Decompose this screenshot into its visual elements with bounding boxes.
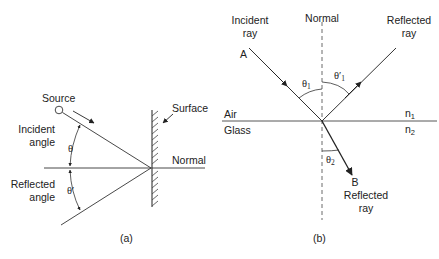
panel-a: Source Surface Normal Incident angle Ref… [11, 92, 209, 244]
glass-label: Glass [224, 124, 251, 136]
theta2-label: θ2 [326, 154, 335, 167]
refracted-ray-b [322, 121, 352, 175]
source-label: Source [42, 92, 75, 104]
source-icon [55, 106, 63, 114]
reflected-ray-bottom-label-2: ray [359, 202, 374, 214]
reflected-ray-top-label-2: ray [402, 27, 417, 39]
surface-hatching [152, 111, 158, 206]
caption-b: (b) [313, 232, 326, 244]
reflected-ray-top-label-1: Reflected [387, 14, 432, 26]
surface-label: Surface [172, 102, 208, 114]
theta1-prime-arc [322, 82, 349, 94]
reflection-refraction-figure: Source Surface Normal Incident angle Ref… [0, 0, 439, 259]
n1-label: n1 [405, 107, 415, 121]
normal-label-a: Normal [172, 154, 206, 166]
point-a-label: A [240, 48, 247, 60]
theta1-prime-label: θ′1 [334, 70, 345, 83]
normal-label-b: Normal [305, 12, 339, 24]
reflected-ray-bottom-label-1: Reflected [344, 189, 389, 201]
incident-ray-label-1: Incident [232, 14, 269, 26]
incident-angle-label-1: Incident [18, 123, 55, 135]
air-label: Air [224, 108, 237, 120]
reflected-angle-label-1: Reflected [11, 178, 56, 190]
theta2-arc [322, 150, 339, 151]
incident-ray [63, 113, 152, 169]
incident-ray-label-2: ray [243, 27, 258, 39]
incident-angle-label-2: angle [29, 136, 55, 148]
theta1-label: θ1 [302, 78, 311, 91]
point-b-label: B [351, 176, 358, 188]
reflected-direction-arrow-icon [345, 82, 361, 98]
incident-direction-arrow-icon [270, 69, 287, 86]
theta-label: θ [68, 143, 73, 154]
reflected-angle-label-2: angle [29, 191, 55, 203]
n2-label: n2 [405, 123, 415, 137]
theta-prime-label: θ′ [67, 185, 74, 196]
panel-b: Incident ray Normal Reflected ray A Air … [222, 12, 437, 244]
caption-a: (a) [120, 232, 133, 244]
surface-pointer-arrow-icon [163, 114, 173, 123]
